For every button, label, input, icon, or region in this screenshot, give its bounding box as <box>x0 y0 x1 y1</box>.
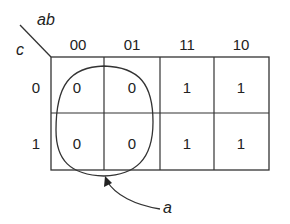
row-variable-label: c <box>16 42 24 58</box>
col-header: 00 <box>70 37 87 52</box>
kmap-cell: 1 <box>237 136 245 151</box>
col-variable-label: ab <box>37 12 55 28</box>
kmap-cell: 1 <box>237 80 245 95</box>
kmap-cell: 0 <box>73 80 81 95</box>
kmap-cell: 0 <box>73 136 81 151</box>
col-header: 11 <box>179 37 195 52</box>
col-header: 10 <box>233 37 250 52</box>
group-arrow <box>107 181 160 209</box>
corner-diagonal <box>20 25 51 57</box>
row-header: 0 <box>32 80 40 95</box>
kmap-cell: 0 <box>128 136 136 151</box>
col-header: 01 <box>124 37 141 52</box>
kmap-cell: 0 <box>128 80 136 95</box>
arrow-head-icon <box>104 176 112 187</box>
kmap-cell: 1 <box>183 80 191 95</box>
kmap-cell: 1 <box>183 136 191 151</box>
kmap-drawing <box>0 0 290 224</box>
group-label-a: a <box>163 200 172 216</box>
row-header: 1 <box>32 136 40 151</box>
